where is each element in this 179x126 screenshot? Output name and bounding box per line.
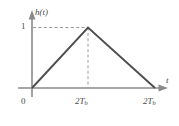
y-axis-label: h(t) [35, 8, 48, 17]
origin-label: 0 [21, 97, 26, 106]
y-axis-label-paren-close: ) [45, 7, 48, 17]
triangular-pulse-figure: h(t) t 1 0 2Tb 2Tb [0, 0, 179, 126]
x-tick-label-peak: 2Tb [75, 97, 88, 107]
x-tick-label-end: 2Tb [143, 97, 156, 107]
x-axis [18, 85, 168, 92]
plot-canvas [0, 0, 179, 126]
x-axis-label: t [166, 76, 169, 85]
triangular-pulse-curve [32, 28, 155, 89]
y-tick-label-one: 1 [21, 22, 26, 31]
x-tick-end-main: 2T [143, 96, 153, 106]
x-axis-arrowhead [159, 85, 169, 92]
x-tick-peak-subscript: b [85, 99, 88, 106]
x-tick-peak-main: 2T [75, 96, 85, 106]
x-tick-end-subscript: b [153, 99, 156, 106]
y-axis [29, 10, 36, 97]
